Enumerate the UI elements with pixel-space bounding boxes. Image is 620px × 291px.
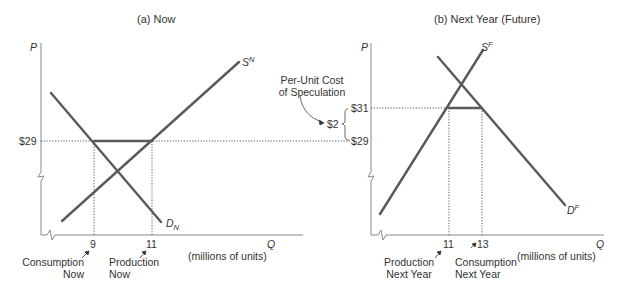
consumption-now-line1: Consumption bbox=[18, 256, 84, 268]
panel-a-curves bbox=[51, 62, 239, 222]
panel-b-curves bbox=[380, 50, 565, 214]
demand-now-label: DN bbox=[166, 217, 179, 229]
demand-now-curve bbox=[51, 93, 161, 222]
panel-a-title: (a) Now bbox=[137, 13, 176, 25]
demand-now-base: D bbox=[166, 217, 174, 229]
panel-b-price-low-tick: $29 bbox=[351, 135, 369, 147]
speculation-label-line2: of Speculation bbox=[273, 86, 351, 98]
production-next-year-line1: Production bbox=[381, 256, 437, 268]
demand-future-label: DF bbox=[567, 204, 579, 216]
panel-b-x-tick-13: 13 bbox=[477, 238, 489, 250]
supply-future-sup: F bbox=[488, 40, 493, 49]
panel-a-x-tick-9: 9 bbox=[90, 238, 96, 250]
demand-future-sup: F bbox=[575, 203, 580, 212]
panel-b-title: (b) Next Year (Future) bbox=[434, 13, 540, 25]
production-now-line1: Production bbox=[109, 256, 159, 268]
consumption-next-year-line1: Consumption bbox=[455, 256, 517, 268]
demand-future-curve bbox=[438, 57, 565, 205]
speculation-label: Per-Unit Cost of Speculation bbox=[273, 74, 351, 98]
panel-a-x-tick-11: 11 bbox=[146, 238, 157, 250]
panel-b-q-label: Q bbox=[596, 238, 604, 250]
supply-future-label: SF bbox=[481, 41, 493, 53]
consumption-next-year-line2: Next Year bbox=[455, 268, 517, 280]
supply-future-curve bbox=[380, 50, 483, 214]
panel-a-p-label: P bbox=[30, 41, 37, 53]
panel-a-q-label: Q bbox=[267, 238, 275, 250]
supply-now-label: SN bbox=[242, 56, 254, 68]
consumption-next-year-label: Consumption Next Year bbox=[455, 256, 517, 280]
production-now-label: Production Now bbox=[109, 256, 159, 280]
supply-future-base: S bbox=[481, 41, 488, 53]
panel-b-q-unit: (millions of units) bbox=[517, 250, 596, 262]
panel-b-x-tick-11: 11 bbox=[443, 238, 454, 250]
panel-a-guides bbox=[41, 141, 350, 235]
panel-b-p-label: P bbox=[361, 41, 368, 53]
panel-b-guides bbox=[371, 108, 482, 235]
supply-now-base: S bbox=[242, 56, 249, 68]
speculation-label-line1: Per-Unit Cost bbox=[273, 74, 351, 86]
consumption-now-line2: Now bbox=[18, 268, 84, 280]
panel-a-axes bbox=[38, 43, 303, 240]
consumption-now-label: Consumption Now bbox=[18, 256, 84, 280]
speculation-annotation bbox=[300, 96, 349, 140]
supply-now-sup: N bbox=[249, 55, 254, 64]
speculation-value: $2 bbox=[327, 118, 339, 130]
demand-now-sub: N bbox=[174, 223, 179, 232]
production-next-year-label: Production Next Year bbox=[381, 256, 437, 280]
panel-a-price-tick: $29 bbox=[19, 135, 37, 147]
production-next-year-line2: Next Year bbox=[381, 268, 437, 280]
panel-a-q-unit: (millions of units) bbox=[188, 250, 267, 262]
demand-future-base: D bbox=[567, 204, 575, 216]
production-now-line2: Now bbox=[109, 268, 159, 280]
panel-b-price-high-tick: $31 bbox=[351, 102, 369, 114]
